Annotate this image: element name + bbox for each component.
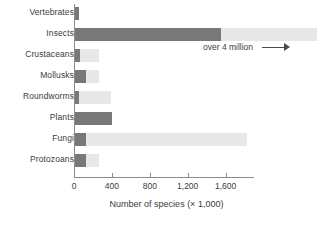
bar-segment-known — [74, 70, 86, 83]
bar-segment-known — [74, 133, 86, 146]
bar-segment-known — [74, 28, 221, 41]
x-axis-tick-label: 1,600 — [215, 181, 236, 191]
category-label-insects: Insects — [2, 28, 74, 38]
x-axis-tick — [74, 173, 75, 178]
bar-segment-estimated — [74, 91, 111, 104]
x-axis-line — [74, 177, 254, 178]
annotation-over-4-million: over 4 million — [203, 42, 253, 52]
annotation-arrow-icon — [284, 43, 290, 51]
category-label-crustaceans: Crustaceans — [2, 49, 74, 59]
bar-segment-estimated — [74, 133, 247, 146]
x-axis-tick — [188, 173, 189, 178]
x-axis-tick-label: 1,200 — [177, 181, 198, 191]
category-label-roundworms: Roundworms — [2, 91, 74, 101]
x-axis-tick — [226, 173, 227, 178]
y-axis-line — [74, 4, 75, 178]
plot-area — [74, 5, 317, 177]
category-label-protozoans: Protozoans — [2, 154, 74, 164]
x-axis-tick — [150, 173, 151, 178]
x-axis-tick — [112, 173, 113, 178]
category-label-vertebrates: Vertebrates — [2, 7, 74, 17]
x-axis-title: Number of species (× 1,000) — [74, 199, 259, 210]
category-label-mollusks: Mollusks — [2, 70, 74, 80]
bar-segment-known — [74, 112, 112, 125]
bar-segment-known — [74, 154, 86, 167]
x-axis-tick-label: 0 — [72, 181, 77, 191]
annotation-leader-line — [262, 47, 286, 48]
category-label-fungi: Fungi — [2, 133, 74, 143]
species-bar-chart: Vertebrates Insects Crustaceans Mollusks… — [0, 0, 317, 225]
x-axis-tick-label: 800 — [143, 181, 157, 191]
x-axis-tick-label: 400 — [105, 181, 119, 191]
category-label-plants: Plants — [2, 112, 74, 122]
